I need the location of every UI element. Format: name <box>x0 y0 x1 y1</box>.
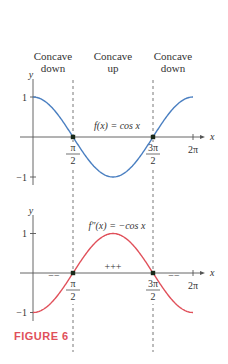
function-label: f(x) = cos x <box>94 120 140 132</box>
x-tick-label-numerator: π <box>70 142 75 153</box>
y-axis-label: y <box>28 205 34 216</box>
x-tick-label-2pi: 2π <box>188 144 198 155</box>
sign-label-negative-left: −− <box>48 270 60 281</box>
y-tick-label: 1 <box>22 92 27 103</box>
inflection-point <box>71 135 75 139</box>
x-tick-label-numerator: π <box>70 278 75 289</box>
x-tick-label-denominator: 2 <box>151 291 156 302</box>
inflection-point <box>71 271 75 275</box>
figure-caption: FIGURE 6 <box>14 330 69 342</box>
x-tick-label-denominator: 2 <box>71 291 76 302</box>
function-label: f″(x) = −cos x <box>89 220 146 232</box>
y-tick-label: −1 <box>16 307 27 318</box>
sign-label-positive: +++ <box>105 261 122 272</box>
x-axis-arrow-icon <box>200 271 205 275</box>
x-tick-label-2pi: 2π <box>188 280 198 291</box>
y-tick-label: 1 <box>22 228 27 239</box>
x-axis-arrow-icon <box>200 135 205 139</box>
x-tick-label-denominator: 2 <box>151 155 156 166</box>
sign-label-negative-right: −− <box>168 270 180 281</box>
x-tick-label-denominator: 2 <box>71 155 76 166</box>
chart-canvas: yx1−12ππ23π2f(x) = cos xyx1−12ππ23π2f″(x… <box>0 0 228 364</box>
y-tick-label: −1 <box>16 172 27 183</box>
x-axis-label: x <box>209 131 215 142</box>
inflection-point <box>151 271 155 275</box>
y-axis-label: y <box>28 69 34 80</box>
inflection-point <box>151 135 155 139</box>
x-axis-label: x <box>209 267 215 278</box>
